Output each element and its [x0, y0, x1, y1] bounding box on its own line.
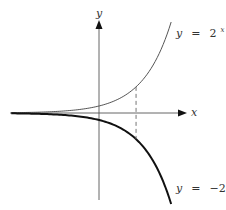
curve-y-equals-neg-2-to-x	[11, 113, 171, 204]
x-axis-label: x	[191, 106, 198, 119]
function-graph-figure: y x y = 2 x y = −2 x	[0, 0, 226, 210]
curve-y-equals-2-to-x	[11, 22, 171, 113]
x-axis-arrow-icon	[178, 110, 187, 117]
y-axis-arrow-icon	[96, 20, 103, 29]
plot-area: y x y = 2 x y = −2 x	[0, 0, 226, 210]
label-lower-curve: y = −2 x	[175, 178, 226, 195]
y-axis-label: y	[95, 7, 103, 20]
label-upper-curve: y = 2 x	[175, 23, 224, 40]
